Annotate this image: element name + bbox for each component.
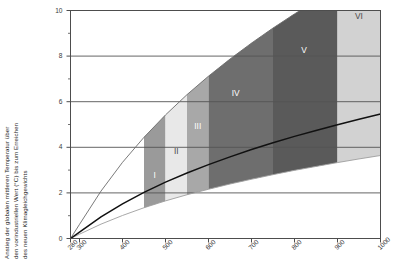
y-tick-label-2: 2: [45, 189, 63, 196]
y-tick-label-6: 6: [45, 98, 63, 105]
y-tick-label-0: 0: [45, 235, 63, 242]
y-axis-label-line-2: den vorindustriellen Wert (°C) bis zum E…: [12, 123, 19, 259]
band-label-iii: III: [194, 121, 201, 131]
band-label-ii: II: [174, 146, 179, 156]
y-axis-label: Anstieg der globalen mittleren Temperatu…: [0, 0, 46, 272]
band-label-iv: IV: [232, 88, 240, 98]
band-label-vi: VI: [355, 11, 363, 21]
y-tick-label-4: 4: [45, 143, 63, 150]
y-axis-label-line-3: des neuen Klimagleichgewichts: [21, 170, 28, 259]
band-label-i: I: [154, 170, 156, 180]
plot-area: IIIIIIIVVVI: [0, 0, 395, 272]
y-axis-label-line-1: Anstieg der globalen mittleren Temperatu…: [3, 126, 10, 259]
band-label-v: V: [301, 45, 307, 55]
climate-sensitivity-chart: Anstieg der globalen mittleren Temperatu…: [0, 0, 395, 272]
y-tick-label-8: 8: [45, 52, 63, 59]
y-tick-label-10: 10: [45, 7, 63, 14]
band-vi: [338, 0, 381, 163]
band-v: [273, 0, 338, 175]
band-iii: [187, 76, 209, 195]
